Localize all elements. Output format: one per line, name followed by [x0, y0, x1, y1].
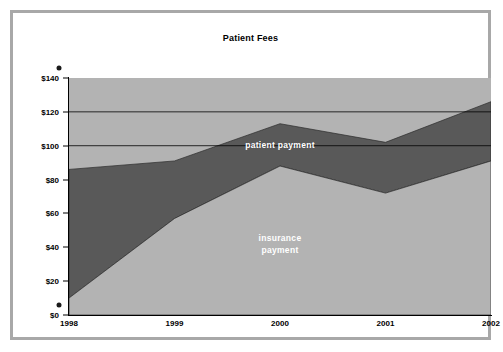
y-axis-top-marker	[57, 66, 62, 71]
y-axis-origin-marker	[57, 303, 62, 308]
y-tick-label: $20	[23, 277, 59, 286]
y-tick-mark	[63, 213, 68, 214]
y-tick-mark	[63, 315, 68, 316]
y-tick-label: $40	[23, 243, 59, 252]
y-tick-mark	[63, 145, 68, 146]
chart-title: Patient Fees	[13, 33, 488, 43]
x-tick-label: 1999	[166, 319, 184, 328]
x-axis-line	[68, 315, 492, 316]
y-tick-label: $120	[23, 107, 59, 116]
plot-area	[69, 78, 491, 315]
y-tick-mark	[63, 111, 68, 112]
y-tick-mark	[63, 247, 68, 248]
y-tick-mark	[63, 78, 68, 79]
area-chart-svg	[69, 78, 491, 315]
series-label-insurance-payment: insurance payment	[230, 232, 330, 256]
y-tick-label: $0	[23, 311, 59, 320]
x-tick-label: 1998	[60, 319, 78, 328]
series-label-patient-payment: patient payment	[220, 139, 340, 151]
x-tick-label: 2001	[377, 319, 395, 328]
y-tick-label: $100	[23, 141, 59, 150]
x-tick-label: 2000	[271, 319, 289, 328]
y-tick-mark	[63, 281, 68, 282]
y-tick-label: $140	[23, 74, 59, 83]
y-tick-label: $80	[23, 175, 59, 184]
y-axis-line	[68, 77, 69, 316]
y-tick-mark	[63, 179, 68, 180]
y-tick-label: $60	[23, 209, 59, 218]
x-tick-label: 2002	[482, 319, 500, 328]
chart-frame: Patient Fees $0$20$40$60$80$100$120$140 …	[10, 10, 491, 340]
